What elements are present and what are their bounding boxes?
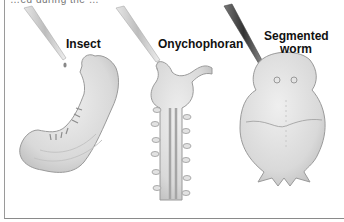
onychophoran-label: Onychophoran (158, 38, 243, 51)
pipette-icon (116, 6, 160, 71)
segmented-worm-larva (240, 52, 325, 186)
segmented-worm-label-line2: worm (264, 43, 328, 56)
insect-embryo (20, 55, 119, 173)
segmented-worm-label: Segmented worm (264, 30, 328, 56)
insect-label: Insect (66, 38, 101, 51)
pipette-icon (24, 6, 67, 68)
onychophoran-embryo (151, 62, 212, 200)
